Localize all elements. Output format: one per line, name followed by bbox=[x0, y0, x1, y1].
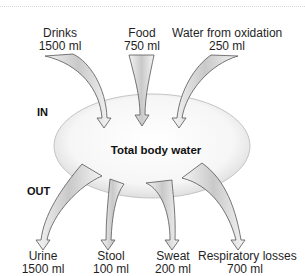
input-amount: 1500 ml bbox=[30, 40, 90, 53]
total-body-water-label: Total body water bbox=[100, 144, 212, 156]
input-amount: 750 ml bbox=[118, 40, 166, 53]
in-label: IN bbox=[37, 106, 48, 118]
output-amount: 700 ml bbox=[198, 263, 292, 276]
arrow-respiratory bbox=[182, 163, 245, 250]
output-amount: 200 ml bbox=[150, 263, 196, 276]
out-label: OUT bbox=[27, 185, 50, 197]
output-stool: Stool 100 ml bbox=[88, 250, 134, 276]
input-amount: 250 ml bbox=[172, 40, 282, 53]
output-amount: 100 ml bbox=[88, 263, 134, 276]
output-sweat: Sweat 200 ml bbox=[150, 250, 196, 276]
output-respiratory: Respiratory losses 700 ml bbox=[198, 250, 292, 276]
output-amount: 1500 ml bbox=[18, 263, 68, 276]
input-oxidation: Water from oxidation 250 ml bbox=[172, 27, 282, 53]
input-drinks: Drinks 1500 ml bbox=[30, 27, 90, 53]
arrow-urine bbox=[36, 164, 102, 250]
output-urine: Urine 1500 ml bbox=[18, 250, 68, 276]
input-food: Food 750 ml bbox=[118, 27, 166, 53]
